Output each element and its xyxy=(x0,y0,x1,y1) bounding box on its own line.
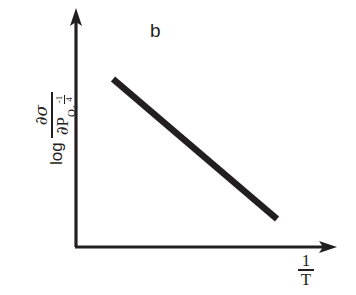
exponent-fraction: -14 xyxy=(55,95,74,105)
y-axis-label-fraction: ∂σ ∂PO₂-14 xyxy=(33,92,80,139)
y-axis-label-denominator: ∂PO₂-14 xyxy=(53,92,80,139)
sigma-symbol: σ xyxy=(31,105,51,117)
exponent-denominator: 4 xyxy=(65,96,74,103)
x-axis-label-denominator: T xyxy=(299,271,313,288)
partial-symbol-numerator: ∂ xyxy=(31,116,51,125)
y-axis-label-numerator: ∂σ xyxy=(33,102,51,128)
x-axis-label: 1 T xyxy=(298,252,314,288)
exponent-numerator: -1 xyxy=(55,95,64,105)
figure-panel-b: b log ∂σ ∂PO₂-14 1 T xyxy=(0,0,356,295)
pressure-symbol: P xyxy=(53,117,72,126)
partial-symbol-denominator: ∂ xyxy=(52,127,72,136)
data-line-series-1 xyxy=(113,79,277,219)
oxygen-subscript: O₂ xyxy=(65,105,77,117)
x-axis-label-numerator: 1 xyxy=(300,252,313,269)
y-axis-label-log: log xyxy=(46,142,67,165)
panel-label: b xyxy=(150,20,161,42)
y-axis-label: log ∂σ ∂PO₂-14 xyxy=(33,25,79,165)
